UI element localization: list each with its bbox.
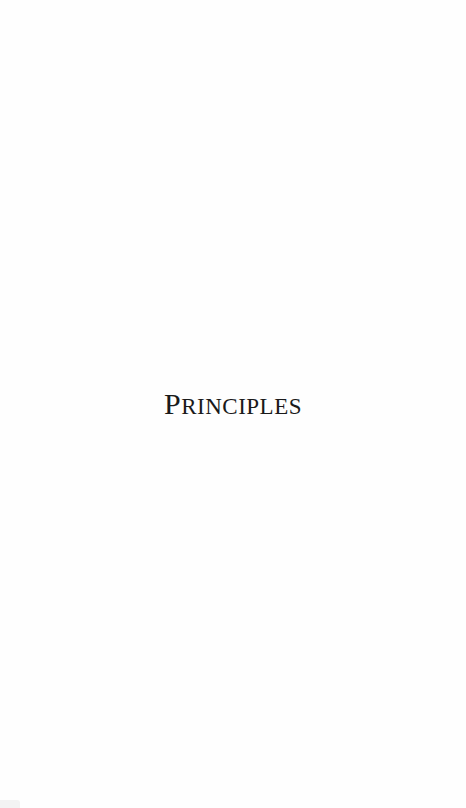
title-rest: RINCIPLES [181,394,302,419]
page-corner-mark [0,800,20,808]
page-title: PRINCIPLES [0,386,466,425]
book-page: PRINCIPLES [0,0,466,808]
title-initial: P [164,387,181,420]
